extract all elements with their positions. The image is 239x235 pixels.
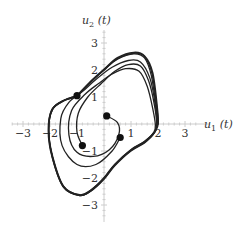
x-tick-label: −3 (15, 127, 31, 140)
y-axis-label: u2 (t) (82, 14, 111, 29)
initial-point-marker (73, 92, 80, 99)
initial-point-marker (79, 142, 86, 149)
x-tick-label: 1 (128, 127, 135, 140)
axes: −3−2−1123−3−2−1123 (12, 30, 210, 222)
y-tick-label: 3 (91, 37, 98, 50)
x-tick-label: 3 (182, 127, 189, 140)
y-tick-label: −2 (82, 172, 98, 185)
initial-point-marker (117, 134, 124, 141)
y-tick-label: −3 (82, 199, 98, 212)
x-tick-label: −2 (42, 127, 58, 140)
x-axis-label: u1 (t) (204, 118, 233, 133)
phase-portrait-chart: −3−2−1123−3−2−1123 u1 (t) u2 (t) (0, 0, 239, 235)
initial-point-marker (103, 112, 110, 119)
